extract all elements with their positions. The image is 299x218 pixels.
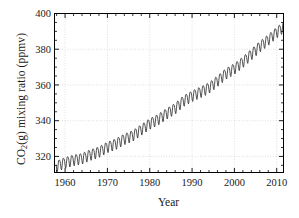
x-tick-label: 1970 [97, 177, 118, 188]
data-series-lines [56, 22, 283, 171]
x-axis-label: Year [54, 196, 283, 208]
y-tick-label: 400 [35, 8, 51, 19]
x-tick-label: 2010 [266, 177, 287, 188]
y-tick-label: 380 [35, 44, 51, 55]
axis-frame [55, 14, 284, 173]
y-tick-label: 320 [35, 151, 51, 162]
x-tick-label: 1990 [182, 177, 203, 188]
chart-plot-area: 320340360380400196019701980199020002010 [0, 0, 299, 218]
x-tick-label: 1960 [55, 177, 76, 188]
gridlines [55, 14, 284, 173]
x-tick-label: 2000 [224, 177, 245, 188]
x-tick-label: 1980 [139, 177, 160, 188]
axis-ticks [55, 14, 284, 173]
y-tick-label: 360 [35, 80, 51, 91]
y-tick-label: 340 [35, 115, 51, 126]
co2-keeling-curve-figure: CO2(g) mixing ratio (ppmv) 3203403603804… [0, 0, 299, 218]
